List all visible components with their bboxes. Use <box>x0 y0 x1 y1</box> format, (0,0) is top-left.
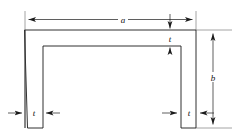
channel-section-drawing: a t b t t <box>0 0 239 139</box>
channel-section-figure: a t b t t <box>0 0 239 139</box>
figure-background <box>0 0 239 139</box>
overall-width-label: a <box>121 15 126 25</box>
overall-depth-label: b <box>211 73 216 83</box>
